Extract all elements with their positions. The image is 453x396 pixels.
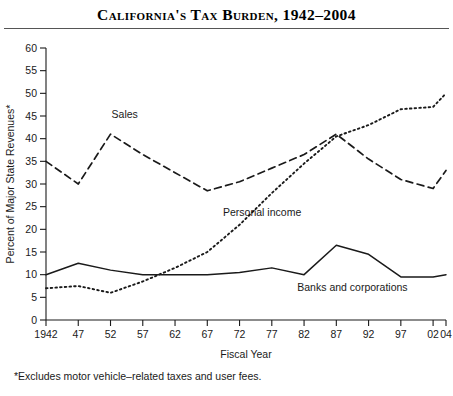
- series-line-sales: [46, 134, 446, 191]
- y-tick-label: 20: [25, 223, 37, 235]
- series-label-sales: Sales: [112, 108, 138, 120]
- x-tick-label: 72: [234, 328, 246, 340]
- x-tick-label: 77: [266, 328, 278, 340]
- x-tick-label: 87: [330, 328, 342, 340]
- y-tick-label: 25: [25, 200, 37, 212]
- series-label-banks-and-corporations: Banks and corporations: [297, 281, 407, 293]
- page-title: California's Tax Burden, 1942–2004: [0, 0, 453, 23]
- series-line-personal-income: [46, 93, 446, 292]
- series-line-banks-and-corporations: [46, 245, 446, 277]
- y-tick-label: 15: [25, 246, 37, 258]
- plot-area: 0510152025303540455055601942475257626772…: [0, 30, 453, 360]
- x-tick-label: 92: [363, 328, 375, 340]
- x-axis-title: Fiscal Year: [220, 348, 272, 360]
- x-tick-label: 57: [137, 328, 149, 340]
- y-tick-label: 45: [25, 110, 37, 122]
- footnote: *Excludes motor vehicle–related taxes an…: [14, 370, 261, 382]
- x-tick-label: 82: [298, 328, 310, 340]
- line-chart: 0510152025303540455055601942475257626772…: [0, 30, 453, 360]
- y-axis-title: Percent of Major State Revenues*: [4, 105, 16, 264]
- x-tick-label: 1942: [34, 328, 58, 340]
- x-tick-label: 52: [105, 328, 117, 340]
- chart-figure: California's Tax Burden, 1942–2004 05101…: [0, 0, 453, 396]
- x-tick-label: 04: [440, 328, 452, 340]
- y-tick-label: 55: [25, 64, 37, 76]
- x-tick-label: 62: [169, 328, 181, 340]
- y-tick-label: 0: [31, 314, 37, 326]
- series-label-personal-income: Personal income: [223, 206, 301, 218]
- x-tick-label: 47: [72, 328, 84, 340]
- y-tick-label: 40: [25, 132, 37, 144]
- y-tick-label: 50: [25, 87, 37, 99]
- x-tick-label: 97: [395, 328, 407, 340]
- title-divider: [4, 28, 449, 29]
- y-tick-label: 5: [31, 291, 37, 303]
- x-tick-label: 67: [201, 328, 213, 340]
- y-tick-label: 60: [25, 42, 37, 54]
- y-tick-label: 10: [25, 268, 37, 280]
- y-tick-label: 30: [25, 178, 37, 190]
- x-tick-label: 02: [427, 328, 439, 340]
- y-tick-label: 35: [25, 155, 37, 167]
